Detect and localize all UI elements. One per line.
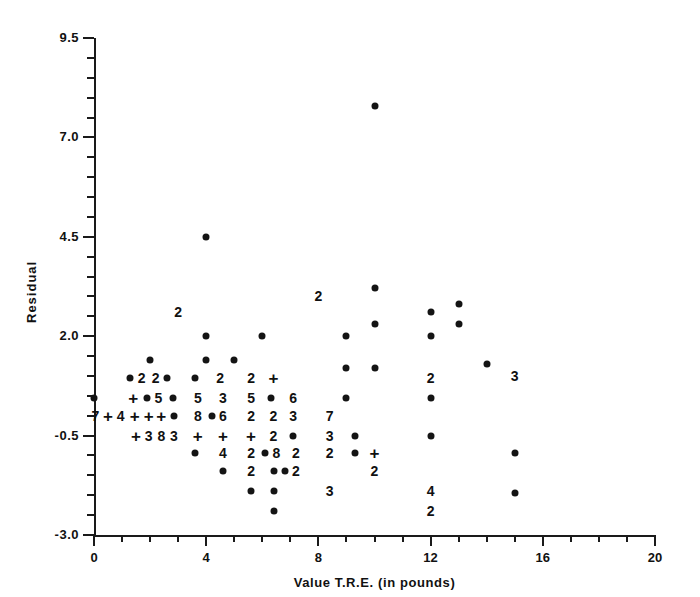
data-point-dot xyxy=(169,394,176,401)
y-axis-minor-tick xyxy=(87,176,94,178)
data-point-count-label: 2 xyxy=(174,305,182,319)
y-axis-minor-tick xyxy=(87,276,94,278)
data-point-plus: + xyxy=(156,407,166,424)
y-axis-minor-tick xyxy=(87,57,94,59)
y-axis-minor-tick xyxy=(87,97,94,99)
data-point-plus: + xyxy=(218,427,228,444)
y-axis-line xyxy=(94,38,96,535)
y-axis-major-tick xyxy=(83,335,94,337)
data-point-dot xyxy=(259,333,266,340)
y-axis-minor-tick xyxy=(87,514,94,516)
data-point-count-label: 2 xyxy=(292,446,300,460)
data-point-dot xyxy=(371,321,378,328)
data-point-plus: + xyxy=(246,427,256,444)
y-axis-minor-tick xyxy=(87,256,94,258)
data-point-count-label: 2 xyxy=(247,446,255,460)
data-point-count-label: 3 xyxy=(326,429,334,443)
x-axis-title: Value T.R.E. (in pounds) xyxy=(44,575,700,590)
data-point-plus: + xyxy=(370,445,380,462)
data-point-count-label: 4 xyxy=(219,446,227,460)
data-point-count-label: 5 xyxy=(155,391,163,405)
data-point-dot xyxy=(170,412,177,419)
data-point-dot xyxy=(371,102,378,109)
y-axis-major-tick xyxy=(83,236,94,238)
data-point-dot xyxy=(371,365,378,372)
x-axis-minor-tick xyxy=(233,535,235,542)
data-point-count-label: 6 xyxy=(219,409,227,423)
data-point-dot xyxy=(427,333,434,340)
data-point-plus: + xyxy=(130,407,140,424)
data-point-dot xyxy=(427,432,434,439)
data-point-count-label: 2 xyxy=(247,371,255,385)
data-point-dot xyxy=(203,333,210,340)
x-axis-major-tick xyxy=(205,535,207,546)
data-point-dot xyxy=(281,468,288,475)
y-axis-minor-tick xyxy=(87,196,94,198)
data-point-count-label: 5 xyxy=(247,391,255,405)
data-point-dot xyxy=(343,394,350,401)
data-point-dot xyxy=(343,365,350,372)
data-point-count-label: 2 xyxy=(326,446,334,460)
data-point-count-label: 2 xyxy=(371,464,379,478)
data-point-count-label: 2 xyxy=(270,409,278,423)
x-axis-minor-tick xyxy=(458,535,460,542)
data-point-dot xyxy=(262,450,269,457)
y-axis-minor-tick xyxy=(87,375,94,377)
y-axis-minor-tick xyxy=(87,454,94,456)
x-axis-minor-tick xyxy=(626,535,628,542)
data-point-dot xyxy=(427,394,434,401)
y-axis-tick-label: -0.5 xyxy=(5,428,79,443)
y-axis-tick-label: 7.0 xyxy=(5,129,79,144)
data-point-dot xyxy=(203,233,210,240)
y-axis-tick-label: 9.5 xyxy=(5,30,79,45)
x-axis-major-tick xyxy=(93,535,95,546)
data-point-dot xyxy=(203,357,210,364)
data-point-dot xyxy=(191,374,198,381)
x-axis-tick-label: 16 xyxy=(523,550,563,565)
data-point-dot xyxy=(511,450,518,457)
x-axis-tick-label: 20 xyxy=(635,550,675,565)
y-axis-minor-tick xyxy=(87,494,94,496)
data-point-plus: + xyxy=(269,369,279,386)
data-point-count-label: 2 xyxy=(247,409,255,423)
y-axis-tick-label: -3.0 xyxy=(5,527,79,542)
data-point-dot xyxy=(270,468,277,475)
x-axis-major-tick xyxy=(542,535,544,546)
data-point-dot xyxy=(191,450,198,457)
data-point-plus: + xyxy=(103,407,113,424)
data-point-count-label: 2 xyxy=(152,371,160,385)
data-point-count-label: 7 xyxy=(326,409,334,423)
data-point-dot xyxy=(455,301,462,308)
y-axis-minor-tick xyxy=(87,117,94,119)
data-point-dot xyxy=(127,374,134,381)
x-axis-minor-tick xyxy=(149,535,151,542)
data-point-count-label: 3 xyxy=(289,409,297,423)
data-point-dot xyxy=(91,394,98,401)
data-point-dot xyxy=(231,357,238,364)
data-point-count-label: 4 xyxy=(117,409,125,423)
data-point-dot xyxy=(267,394,274,401)
x-axis-major-tick xyxy=(654,535,656,546)
data-point-count-label: 8 xyxy=(194,409,202,423)
data-point-dot xyxy=(270,508,277,515)
data-point-dot xyxy=(351,450,358,457)
data-point-count-label: 5 xyxy=(194,391,202,405)
x-axis-minor-tick xyxy=(486,535,488,542)
y-axis-minor-tick xyxy=(87,355,94,357)
x-axis-tick-label: 0 xyxy=(74,550,114,565)
y-axis-tick-label: 2.0 xyxy=(5,328,79,343)
y-axis-major-tick xyxy=(83,435,94,437)
y-axis-major-tick xyxy=(83,37,94,39)
x-axis-minor-tick xyxy=(374,535,376,542)
x-axis-minor-tick xyxy=(289,535,291,542)
x-axis-tick-label: 12 xyxy=(411,550,451,565)
data-point-dot xyxy=(427,309,434,316)
data-point-count-label: 8 xyxy=(157,429,165,443)
data-point-dot xyxy=(455,321,462,328)
x-axis-minor-tick xyxy=(345,535,347,542)
x-axis-minor-tick xyxy=(402,535,404,542)
x-axis-minor-tick xyxy=(261,535,263,542)
y-axis-tick-label: 4.5 xyxy=(5,229,79,244)
x-axis-minor-tick xyxy=(121,535,123,542)
data-point-count-label: 3 xyxy=(145,429,153,443)
